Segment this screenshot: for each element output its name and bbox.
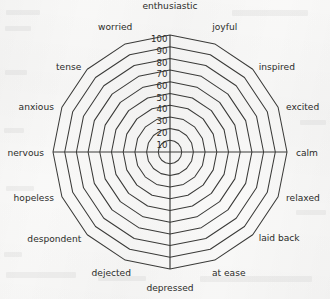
category-label-nervous: nervous	[7, 148, 44, 158]
category-label-enthusiastic: enthusiastic	[142, 1, 197, 11]
category-label-tense: tense	[56, 62, 82, 72]
radial-tick-30: 30	[157, 116, 168, 126]
category-label-anxious: anxious	[19, 102, 55, 112]
category-label-calm: calm	[296, 148, 318, 158]
category-label-hopeless: hopeless	[14, 193, 55, 203]
category-label-worried: worried	[98, 22, 132, 32]
radial-tick-40: 40	[157, 104, 168, 114]
radial-tick-100: 100	[151, 34, 167, 44]
category-label-inspired: inspired	[259, 62, 295, 72]
category-label-excited: excited	[286, 102, 319, 112]
radial-tick-60: 60	[157, 81, 168, 91]
radial-tick-50: 50	[157, 93, 168, 103]
category-label-joyful: joyful	[211, 22, 237, 32]
radial-tick-20: 20	[157, 128, 168, 138]
radial-tick-70: 70	[157, 69, 168, 79]
category-label-laid-back: laid back	[259, 233, 301, 243]
radial-tick-10: 10	[157, 140, 168, 150]
radar-chart: 100908070605040302010 enthusiasticjoyful…	[0, 0, 330, 299]
category-label-despondent: despondent	[27, 234, 81, 244]
category-label-dejected: dejected	[92, 268, 131, 278]
radial-tick-90: 90	[157, 46, 168, 56]
radial-tick-80: 80	[157, 58, 168, 68]
radial-tick-labels: 100908070605040302010	[151, 34, 167, 149]
radar-axes	[53, 35, 287, 269]
category-label-relaxed: relaxed	[286, 193, 320, 203]
category-label-depressed: depressed	[146, 283, 193, 293]
category-label-at-ease: at ease	[212, 268, 246, 278]
